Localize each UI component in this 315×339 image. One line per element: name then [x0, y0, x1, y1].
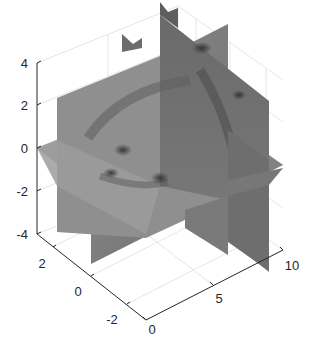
- z-tick-labels: 4 2 0 -2 -4: [16, 56, 28, 242]
- x-tick-labels: 0 5 10: [148, 258, 299, 337]
- y-tick-label: 2: [38, 256, 45, 271]
- z-tick-label: 4: [21, 56, 28, 71]
- x-tick-label: 0: [148, 322, 155, 337]
- slice-plot: 4 2 0 -2 -4 2 0 -2 0 5 10: [0, 0, 315, 339]
- y-tick-label: -2: [106, 312, 118, 327]
- x-tick-label: 5: [215, 291, 222, 306]
- x-tick-label: 10: [285, 258, 299, 273]
- z-tick-label: 2: [21, 98, 28, 113]
- y-tick-label: 0: [74, 284, 81, 299]
- x-axis: [146, 250, 283, 320]
- z-tick-label: 0: [21, 141, 28, 156]
- z-tick-label: -2: [16, 184, 28, 199]
- z-tick-label: -4: [16, 227, 28, 242]
